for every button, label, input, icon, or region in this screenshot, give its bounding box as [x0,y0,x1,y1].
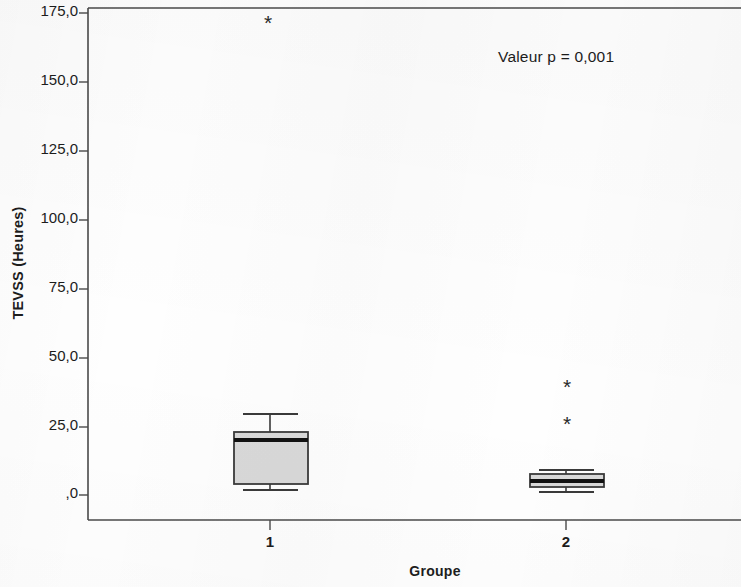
outlier-marker-2a: * [563,375,571,398]
boxplot-figure: * * * [0,0,741,587]
x-tick-label-2: 2 [546,533,586,550]
x-axis-title: Groupe [375,563,495,579]
p-value-annotation: Valeur p = 0,001 [498,48,614,66]
chart-page: * * * 175,0 150,0 125,0 100,0 [0,0,741,587]
x-tick-label-1: 1 [250,533,290,550]
boxplot-group-2: * * [530,375,604,492]
boxplot-group-1: * [234,11,308,490]
y-axis-ticks [79,13,88,495]
y-axis-title: TEVSS (Heures) [10,193,26,333]
outlier-marker-1a: * [264,11,272,34]
outlier-marker-2b: * [563,412,571,435]
x-axis-ticks [270,520,566,530]
